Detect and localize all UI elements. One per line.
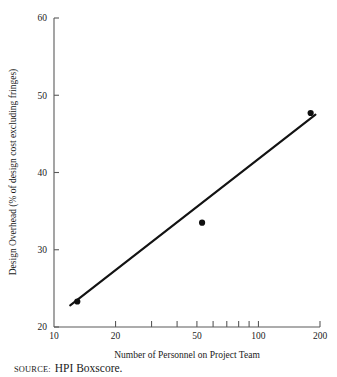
trend-line <box>70 115 315 306</box>
x-tick-label: 20 <box>111 331 121 341</box>
y-axis-title: Design Overhead (% of design cost exclud… <box>8 69 19 276</box>
y-axis-tick-labels: 2030405060 <box>38 13 48 332</box>
source-note-label: SOURCE: <box>14 365 51 374</box>
y-tick-label: 60 <box>38 13 48 23</box>
x-tick-label: 200 <box>313 331 328 341</box>
y-tick-label: 50 <box>38 91 48 101</box>
data-point <box>308 110 314 116</box>
x-tick-label: 10 <box>49 331 59 341</box>
figure-container: 2030405060 102050100200 Number of Person… <box>0 0 337 377</box>
x-tick-label: 50 <box>192 331 202 341</box>
x-axis-title: Number of Personnel on Project Team <box>114 350 260 360</box>
x-axis-minor-ticks <box>152 321 250 327</box>
chart-canvas: 2030405060 102050100200 Number of Person… <box>0 0 337 377</box>
y-axis-ticks <box>54 18 59 327</box>
x-tick-label: 100 <box>251 331 266 341</box>
y-tick-label: 40 <box>38 168 48 178</box>
data-point <box>74 298 80 304</box>
y-tick-label: 20 <box>38 322 48 332</box>
y-tick-label: 30 <box>38 245 48 255</box>
x-axis-ticks <box>116 321 320 327</box>
x-axis-tick-labels: 102050100200 <box>49 331 327 341</box>
data-point <box>199 220 205 226</box>
source-note-text: HPI Boxscore. <box>51 362 123 374</box>
source-note: SOURCE:HPI Boxscore. <box>14 362 123 374</box>
